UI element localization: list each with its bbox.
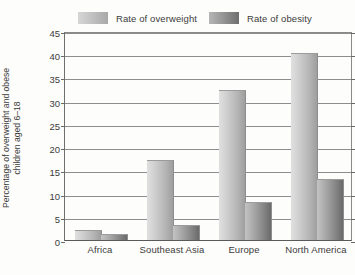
y-axis-tick-mark: [61, 242, 65, 243]
bar: [291, 53, 318, 240]
y-axis-tick-label: 5: [55, 213, 60, 224]
bar-group: [219, 33, 271, 240]
legend-swatch-overweight-icon: [78, 12, 108, 24]
y-axis-tick-mark-right: [351, 79, 355, 80]
x-axis-tick-label: Europe: [228, 244, 259, 255]
y-axis-tick-label: 0: [55, 237, 60, 248]
legend-item-overweight: Rate of overweight: [78, 9, 197, 27]
y-axis-tick-label: 20: [49, 144, 60, 155]
y-axis-title: Percentage of overweight and obese child…: [0, 30, 24, 245]
y-axis-tick-mark-right: [351, 103, 355, 104]
y-axis-title-line-1: Percentage of overweight and obese: [1, 68, 12, 208]
y-axis-tick-label: 10: [49, 190, 60, 201]
x-axis-labels: AfricaSoutheast AsiaEuropeNorth America: [64, 244, 352, 264]
y-axis-tick-label: 30: [49, 97, 60, 108]
y-axis-tick-label: 15: [49, 167, 60, 178]
y-axis-tick-label: 25: [49, 120, 60, 131]
bar: [101, 234, 128, 240]
legend-label-overweight: Rate of overweight: [116, 13, 197, 24]
y-axis-tick-mark-right: [351, 242, 355, 243]
bar-group: [75, 33, 127, 240]
x-axis-tick-label: North America: [285, 244, 347, 255]
legend-label-obesity: Rate of obesity: [247, 13, 312, 24]
y-axis-tick-mark-right: [351, 33, 355, 34]
bar-chart: Rate of overweight Rate of obesity Perce…: [0, 0, 355, 275]
y-axis-tick-label: 45: [49, 28, 60, 39]
bar: [75, 230, 102, 240]
bar: [173, 225, 200, 240]
bar: [317, 179, 344, 240]
bar-group: [291, 33, 343, 240]
y-axis-title-line-2: children aged 6–18: [12, 68, 23, 208]
bar: [147, 160, 174, 240]
legend-item-obesity: Rate of obesity: [209, 9, 312, 27]
y-axis-tick-mark-right: [351, 196, 355, 197]
chart-legend: Rate of overweight Rate of obesity: [0, 9, 355, 27]
plot-area: 454035302520151050: [64, 32, 352, 241]
bars-layer: [65, 33, 351, 240]
y-axis-tick-mark-right: [351, 149, 355, 150]
bar: [219, 90, 246, 240]
legend-swatch-obesity-icon: [209, 12, 239, 24]
y-axis-tick-label: 40: [49, 51, 60, 62]
y-axis-tick-label: 35: [49, 74, 60, 85]
y-axis-tick-mark-right: [351, 172, 355, 173]
x-axis-tick-label: Africa: [88, 244, 113, 255]
bar-group: [147, 33, 199, 240]
y-axis-tick-mark-right: [351, 126, 355, 127]
bar: [245, 202, 272, 240]
x-axis-tick-label: Southeast Asia: [140, 244, 205, 255]
y-axis-tick-mark-right: [351, 219, 355, 220]
y-axis-tick-mark-right: [351, 56, 355, 57]
